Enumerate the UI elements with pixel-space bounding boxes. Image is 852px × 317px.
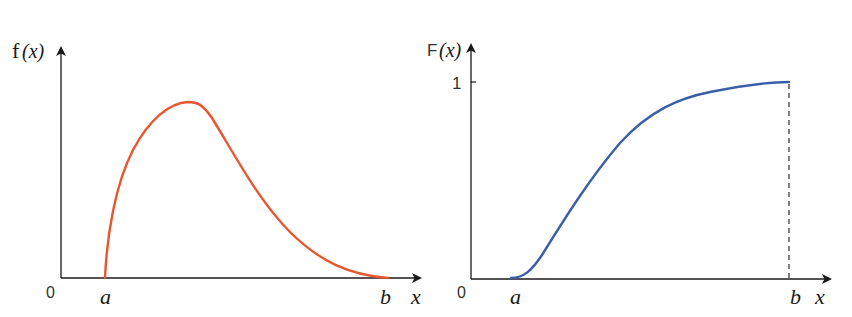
pdf-curve [105,102,388,278]
cdf-curve [511,82,789,278]
cdf-origin-label: 0 [457,284,466,301]
cdf-x-tick-a: a [510,284,521,309]
pdf-x-tick-a: a [100,284,111,309]
pdf-origin-label: 0 [46,284,55,301]
pdf-x-tick-b: b [380,284,391,309]
cdf-y-label-func: F [427,41,437,60]
pdf-chart: f (x) 0 a b x [12,38,421,309]
cdf-chart: F (x) 1 0 a b x [427,39,830,309]
pdf-y-label-func: f [12,38,20,63]
pdf-y-label-arg: (x) [22,40,45,63]
cdf-y-tick-label-1: 1 [452,74,461,93]
pdf-x-axis-label: x [410,284,421,309]
cdf-y-label-arg: (x) [439,39,462,62]
cdf-x-tick-b: b [790,284,801,309]
figure-canvas: f (x) 0 a b x F (x) 1 0 a b x [0,0,852,317]
cdf-x-axis-label: x [814,284,825,309]
